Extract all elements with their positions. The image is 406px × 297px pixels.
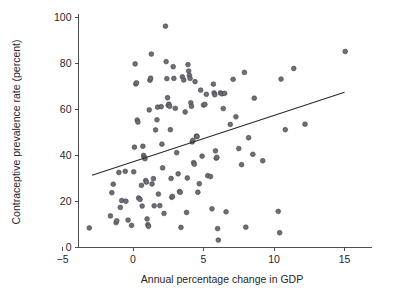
scatter-point — [303, 122, 308, 127]
scatter-point — [231, 77, 236, 82]
scatter-point — [214, 155, 219, 160]
scatter-point — [215, 226, 220, 231]
scatter-point — [108, 214, 113, 219]
scatter-point — [145, 217, 150, 222]
scatter-point — [174, 150, 179, 155]
scatter-point — [126, 218, 131, 223]
scatter-point — [212, 92, 217, 97]
x-axis-title: Annual percentage change in GDP — [141, 273, 303, 285]
scatter-point — [114, 218, 119, 223]
scatter-point — [165, 95, 170, 100]
scatter-point — [176, 171, 181, 176]
scatter-point — [213, 148, 218, 153]
scatter-point — [236, 146, 241, 151]
scatter-point — [186, 69, 191, 74]
scatter-point — [234, 114, 239, 119]
scatter-point — [204, 92, 209, 97]
scatter-point — [118, 205, 123, 210]
scatter-point — [193, 79, 198, 84]
scatter-point — [179, 225, 184, 230]
scatter-point — [200, 154, 205, 159]
scatter-point — [210, 206, 215, 211]
scatter-point — [171, 76, 176, 81]
scatter-point — [152, 203, 157, 208]
scatter-point — [192, 162, 197, 167]
scatter-point — [139, 183, 144, 188]
scatter-point — [183, 110, 188, 115]
scatter-point — [160, 142, 165, 147]
scatter-point — [123, 169, 128, 174]
scatter-point — [163, 24, 168, 29]
x-tick-label: 15 — [339, 253, 351, 265]
scatter-point — [149, 52, 154, 57]
scatter-point — [124, 199, 129, 204]
scatter-point — [156, 192, 161, 197]
scatter-point — [140, 204, 145, 209]
scatter-point — [170, 194, 175, 199]
scatter-point — [148, 76, 153, 81]
scatter-point — [279, 77, 284, 82]
scatter-point — [164, 59, 169, 64]
scatter-point — [343, 49, 348, 54]
scatter-point — [155, 117, 160, 122]
y-tick-label: 60 — [60, 103, 72, 115]
scatter-point — [195, 134, 200, 139]
y-tick-label: 100 — [54, 11, 72, 23]
scatter-point — [171, 64, 176, 69]
scatter-point — [147, 108, 152, 113]
y-tick-label: 80 — [60, 57, 72, 69]
axis-tick-labels: 020406080100−5051015 — [54, 11, 351, 265]
scatter-point — [181, 78, 186, 83]
scatter-point — [150, 182, 155, 187]
scatter-point — [208, 174, 213, 179]
scatter-point — [87, 226, 92, 231]
scatter-point — [228, 122, 233, 127]
scatter-point — [136, 120, 141, 125]
y-tick-label: 20 — [60, 195, 72, 207]
scatter-point — [211, 82, 216, 87]
regression-line — [92, 92, 344, 175]
scatter-point — [146, 224, 151, 229]
scatter-point — [216, 238, 221, 243]
scatter-point — [111, 182, 116, 187]
scatter-point — [160, 165, 165, 170]
scatter-point — [221, 106, 226, 111]
scatter-point — [129, 223, 134, 228]
scatter-point — [138, 197, 143, 202]
scatter-point — [134, 80, 139, 85]
scatter-point — [283, 127, 288, 132]
scatter-plot-figure: 020406080100−5051015 Annual percentage c… — [0, 0, 406, 297]
scatter-point — [168, 127, 173, 132]
scatter-point — [276, 209, 281, 214]
scatter-point — [144, 180, 149, 185]
trend-line — [92, 92, 344, 175]
scatter-point — [252, 96, 257, 101]
scatter-point — [162, 211, 167, 216]
y-tick-label: 40 — [60, 149, 72, 161]
scatter-point — [186, 62, 191, 67]
x-tick-label: −5 — [57, 253, 69, 265]
scatter-point — [197, 181, 202, 186]
scatter-point — [185, 176, 190, 181]
scatter-point — [178, 190, 183, 195]
scatter-point — [242, 70, 247, 75]
scatter-point — [188, 76, 193, 81]
scatter-point — [203, 102, 208, 107]
scatter-point — [222, 91, 227, 96]
axis-ticks — [63, 17, 345, 251]
scatter-point — [277, 230, 282, 235]
chart-canvas: 020406080100−5051015 Annual percentage c… — [0, 0, 406, 297]
x-tick-label: 10 — [268, 253, 280, 265]
scatter-point — [198, 88, 203, 93]
scatter-point — [151, 176, 156, 181]
scatter-point — [159, 104, 164, 109]
scatter-point — [117, 170, 122, 175]
x-tick-label: 5 — [201, 253, 207, 265]
scatter-point — [250, 152, 255, 157]
scatter-point — [291, 66, 296, 71]
scatter-point — [189, 104, 194, 109]
scatter-point — [157, 203, 162, 208]
scatter-point — [184, 210, 189, 215]
scatter-point — [109, 190, 114, 195]
scatter-point — [246, 135, 251, 140]
